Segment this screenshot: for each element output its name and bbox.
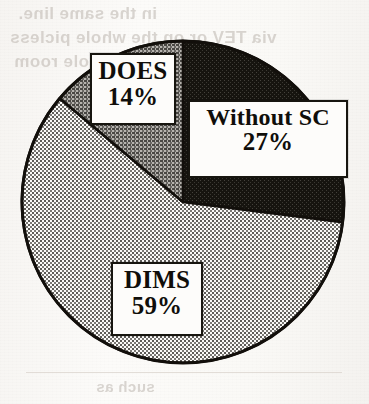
pie-label-without-sc-percent: 27% <box>196 129 340 155</box>
figure-canvas: in the same line. via TEV or on the whol… <box>0 0 369 404</box>
pie-chart-svg <box>0 0 369 404</box>
pie-label-does-percent: 14% <box>98 84 168 110</box>
pie-label-dims[interactable]: DIMS 59% <box>111 262 203 336</box>
pie-label-does[interactable]: DOES 14% <box>90 53 176 125</box>
pie-label-dims-name: DIMS <box>119 267 195 293</box>
pie-chart <box>0 0 369 404</box>
pie-label-without-sc[interactable]: Without SC 27% <box>188 100 348 178</box>
pie-label-does-name: DOES <box>98 58 168 84</box>
pie-label-without-sc-name: Without SC <box>196 105 340 129</box>
pie-label-dims-percent: 59% <box>119 293 195 319</box>
